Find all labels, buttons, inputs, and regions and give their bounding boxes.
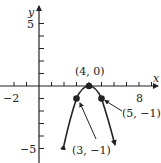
right-point [98, 95, 105, 102]
parabola-graph: y x −2 8 5 −5 (4, 0) (5, −1) (3, −1) [0, 0, 161, 163]
x-tick-label-neg2: −2 [3, 92, 19, 105]
x-tick-label-8: 8 [136, 92, 143, 105]
parabola-curve [64, 86, 115, 145]
right-point-pointer [105, 101, 122, 112]
left-point-pointer [80, 103, 96, 139]
left-point-label: (3, −1) [72, 144, 111, 157]
right-point-label: (5, −1) [122, 107, 161, 120]
y-tick-label-5: 5 [27, 18, 34, 31]
x-axis-label: x [153, 72, 160, 85]
y-tick-label-neg5: −5 [20, 143, 36, 156]
vertex-label: (4, 0) [75, 65, 105, 78]
vertex-point [86, 83, 93, 90]
left-point [73, 95, 80, 102]
